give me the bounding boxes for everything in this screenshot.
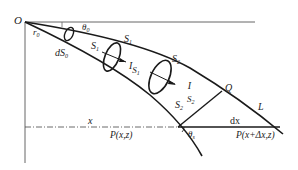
wavefront-line-Q (178, 91, 222, 127)
cross-section-S1 (100, 40, 124, 73)
label-I-S2: IS2 (187, 80, 195, 105)
label-S1-left: S1 (91, 40, 99, 52)
label-theta-s: θs (188, 129, 195, 140)
label-O: O (14, 14, 22, 26)
label-L: L (257, 101, 264, 112)
label-P-x-dx-z: P(x+Δx,z) (235, 130, 275, 141)
label-dS0: dS0 (55, 47, 68, 59)
label-Q: Q (225, 82, 233, 93)
S1-arrowhead (119, 58, 126, 62)
upper-ray (25, 22, 283, 134)
label-P-x-z: P(x,z) (109, 130, 132, 141)
S2-arrowhead (168, 80, 176, 85)
label-theta0: θ0 (82, 22, 89, 33)
label-I-S1: IS1 (128, 60, 140, 76)
label-S2-bottom: S2 (175, 99, 183, 111)
label-S1-top: S1 (124, 33, 132, 45)
label-S2-top: S2 (172, 53, 180, 65)
label-dx: dx (230, 115, 240, 126)
ray-tube-diagram: O r0 θ0 dS0 S1 S1 IS1 S2 IS2 S2 Q L x dx… (0, 0, 298, 170)
label-x: x (87, 115, 93, 126)
